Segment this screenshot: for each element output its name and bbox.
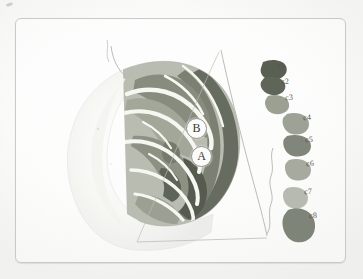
legend-label-c2: c2 (281, 77, 289, 86)
figure-canvas: c1 c2 c3 c4 c5 c6 c7 c8 B A (0, 0, 363, 279)
legend-label-c6: c6 (306, 159, 314, 168)
legend-label-c8: c8 (309, 211, 317, 220)
legend-label-c3: c3 (285, 93, 293, 102)
legend-label-c5: c5 (305, 135, 313, 144)
legend-swatches-layer (15, 18, 344, 261)
marker-b: B (186, 118, 207, 139)
legend-label-c1: c1 (277, 61, 285, 70)
marker-a: A (191, 146, 212, 167)
stray-pencil-mark (6, 2, 14, 7)
legend-label-c4: c4 (303, 113, 311, 122)
legend-label-c7: c7 (304, 187, 312, 196)
illustration-area (15, 18, 344, 261)
